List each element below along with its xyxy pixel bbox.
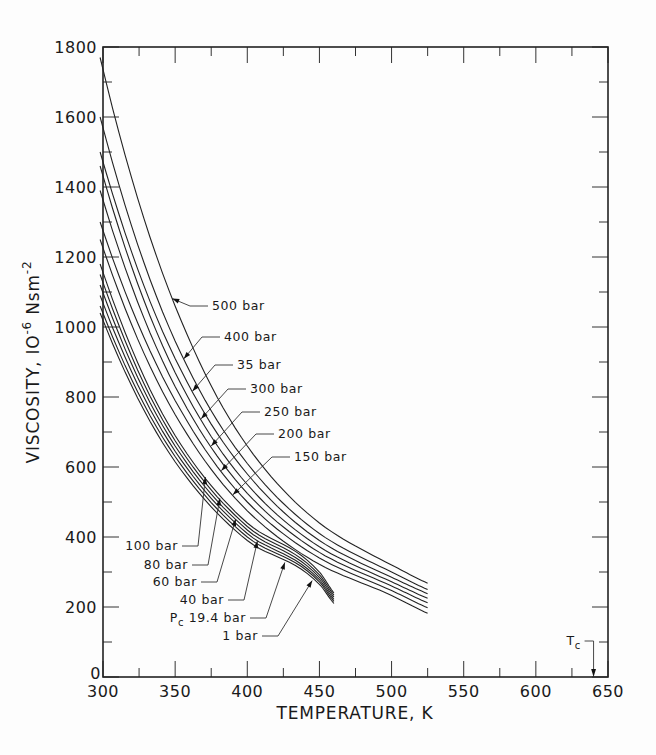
x-tick-labels: 300350400450500550600650 [87,682,624,701]
curve-label: Pc 19.4 bar [170,610,246,628]
y-axis-title-unit-exp: -2 [20,261,34,275]
curve-label: 200 bar [278,426,331,441]
arrow-icon [591,669,596,677]
tc-leader [585,641,594,671]
x-tick-label: 350 [159,682,191,701]
curve-35-bar [100,152,428,594]
arrow-icon [306,581,312,588]
y-axis-title-base: IO [23,335,43,355]
x-tick-label: 600 [520,682,552,701]
tc-label: Tc [566,633,581,651]
svg-text:VISCOSITY, IO-6 Nsm-2: VISCOSITY, IO-6 Nsm-2 [20,261,43,464]
viscosity-temperature-chart: 500 bar400 bar35 bar300 bar250 bar200 ba… [0,0,656,755]
x-tick-label: 300 [87,682,119,701]
curve-label: 40 bar [180,592,224,607]
y-tick-label: 1200 [54,248,97,267]
curve-label: 1 bar [222,628,258,643]
y-axis-title: VISCOSITY, IO-6 Nsm-2 [20,261,43,464]
y-tick-label: 1400 [54,178,97,197]
label-leader [228,541,257,600]
x-tick-label: 500 [376,682,408,701]
x-tick-label: 650 [592,682,624,701]
y-tick-label: 0 [90,664,101,683]
x-axis-title: TEMPERATURE, K [276,703,434,723]
y-tick-label: 200 [65,598,97,617]
y-tick-label: 400 [65,528,97,547]
curve-400-bar [100,117,428,590]
y-axis-title-unit: Nsm [23,274,43,321]
curve-label: 60 bar [153,574,197,589]
y-tick-label: 1800 [54,38,97,57]
curve-label: 300 bar [250,381,303,396]
curve-label: 250 bar [264,404,317,419]
curve-label: 35 bar [237,357,281,372]
curve-label: 80 bar [144,557,188,572]
x-tick-label: 550 [448,682,480,701]
x-tick-label: 400 [231,682,263,701]
critical-temperature-marker: Tc [566,633,596,677]
y-axis-title-exp: -6 [20,321,34,335]
y-tick-labels: 020040060080010001200140016001800 [54,38,101,683]
label-leader [233,457,290,495]
curve-label: 500 bar [212,298,265,313]
arrow-icon [280,562,285,569]
label-leader [201,519,236,582]
curve-label: 400 bar [224,329,277,344]
label-leader [192,498,220,565]
label-leader [250,562,285,618]
y-tick-label: 600 [65,458,97,477]
x-tick-label: 450 [303,682,335,701]
curve-500-bar [100,58,428,584]
curve-label: 150 bar [294,449,347,464]
curve-label: 100 bar [125,538,178,553]
y-tick-label: 1600 [54,108,97,127]
y-axis-title-main: VISCOSITY, [23,355,43,464]
y-tick-label: 1000 [54,318,97,337]
y-tick-label: 800 [65,388,97,407]
